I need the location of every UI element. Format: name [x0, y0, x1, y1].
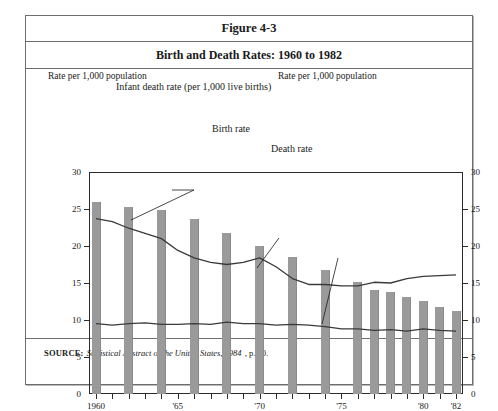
figure-number: Figure 4-3 [26, 16, 472, 42]
x-tick-1971 [276, 394, 277, 399]
x-tick-1968 [227, 394, 228, 399]
x-label-1982: '82 [451, 401, 462, 411]
x-tick-1979 [407, 394, 408, 399]
x-tick-1965 [178, 394, 179, 399]
x-tick-1982 [456, 394, 457, 399]
x-tick-1974 [325, 394, 326, 399]
x-label-1970: '70 [254, 401, 265, 411]
y-label-right-20: 20 [471, 242, 491, 251]
y-label-left-5: 5 [61, 353, 81, 362]
y-tick-left-25 [84, 209, 89, 210]
plot-region: Rate per 1,000 population Rate per 1,000… [26, 69, 472, 338]
y-label-left-20: 20 [61, 242, 81, 251]
y-label-right-30: 30 [471, 168, 491, 177]
x-tick-1961 [112, 394, 113, 399]
y-label-right-5: 5 [471, 353, 491, 362]
x-tick-1975 [341, 394, 342, 399]
y-tick-right-15 [463, 283, 468, 284]
annotation-infant-death-rate: Infant death rate (per 1,000 live births… [116, 81, 271, 92]
axis-caption-right: Rate per 1,000 population [278, 71, 377, 81]
y-label-left-10: 10 [61, 316, 81, 325]
x-tick-1978 [391, 394, 392, 399]
annotation-birth-rate: Birth rate [212, 123, 250, 134]
y-tick-right-25 [463, 209, 468, 210]
y-tick-right-10 [463, 320, 468, 321]
x-tick-1977 [374, 394, 375, 399]
x-tick-1963 [145, 394, 146, 399]
birth-rate-line [96, 219, 456, 286]
line-series-layer [89, 172, 463, 394]
x-tick-1972 [292, 394, 293, 399]
y-label-left-25: 25 [61, 205, 81, 214]
figure-title: Birth and Death Rates: 1960 to 1982 [26, 42, 472, 69]
y-tick-left-10 [84, 320, 89, 321]
x-tick-1967 [211, 394, 212, 399]
axis-caption-left: Rate per 1,000 population [48, 71, 147, 81]
x-label-1975: '75 [336, 401, 347, 411]
y-tick-left-5 [84, 357, 89, 358]
y-label-right-0: 0 [471, 390, 491, 399]
annotation-death-rate: Death rate [271, 143, 312, 154]
x-tick-1970 [260, 394, 261, 399]
x-tick-1969 [243, 394, 244, 399]
y-tick-left-15 [84, 283, 89, 284]
x-label-1965: '65 [173, 401, 184, 411]
x-tick-1962 [129, 394, 130, 399]
chart-plot-area: 0055101015152020252530301960'65'70'75'80… [89, 172, 463, 394]
x-tick-1980 [423, 394, 424, 399]
y-label-left-15: 15 [61, 279, 81, 288]
death-rate-leader-line [322, 258, 338, 324]
x-tick-1966 [194, 394, 195, 399]
x-tick-1981 [440, 394, 441, 399]
y-label-right-10: 10 [471, 316, 491, 325]
y-label-right-25: 25 [471, 205, 491, 214]
y-label-right-15: 15 [471, 279, 491, 288]
y-label-left-0: 0 [61, 390, 81, 399]
birth-rate-leader-line [257, 238, 279, 268]
x-label-1980: '80 [418, 401, 429, 411]
x-tick-1973 [309, 394, 310, 399]
y-label-left-30: 30 [61, 168, 81, 177]
y-tick-right-5 [463, 357, 468, 358]
x-tick-1960 [96, 394, 97, 399]
x-tick-1976 [358, 394, 359, 399]
infant-death-rate-leader-line [131, 190, 194, 220]
y-tick-left-20 [84, 246, 89, 247]
death-rate-line [96, 322, 456, 331]
y-tick-right-20 [463, 246, 468, 247]
figure-frame: Figure 4-3 Birth and Death Rates: 1960 t… [25, 15, 473, 385]
x-tick-1964 [161, 394, 162, 399]
x-label-1960: 1960 [87, 401, 105, 411]
